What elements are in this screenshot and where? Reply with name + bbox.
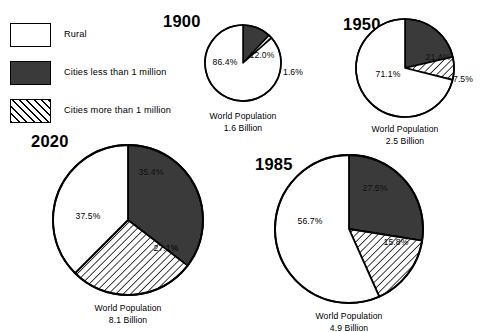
- chart-caption-1985: World Population 4.9 Billion: [299, 311, 399, 332]
- caption-line2-1900: 1.6 Billion: [193, 123, 293, 135]
- pie-svg-1985: [274, 154, 424, 304]
- chart-caption-1900: World Population 1.6 Billion: [193, 111, 293, 134]
- pie-slice-1985-cities_less_1m: [349, 155, 423, 241]
- legend-label-rural: Rural: [64, 30, 87, 39]
- legend-label-cities-less-1m: Cities less than 1 million: [64, 68, 166, 77]
- pie-svg-1950: [354, 17, 456, 119]
- caption-line1-2020: World Population: [78, 303, 178, 315]
- pie-label-2020-cities-less-1m: 35.4%: [139, 168, 164, 177]
- pie-label-1950-rural: 71.1%: [376, 70, 401, 79]
- legend: Rural Cities less than 1 million Cities …: [10, 22, 195, 136]
- caption-line1-1950: World Population: [355, 124, 455, 136]
- legend-item-cities-less-1m: Cities less than 1 million: [10, 60, 195, 86]
- chart-year-1900: 1900: [163, 13, 201, 30]
- pie-label-1950-cities-more-1m: 7.5%: [453, 75, 473, 84]
- pie-chart-1950: [354, 17, 456, 119]
- caption-line2-2020: 8.1 Billion: [78, 315, 178, 327]
- caption-line1-1985: World Population: [299, 311, 399, 323]
- legend-label-cities-more-1m: Cities more than 1 million: [64, 106, 171, 115]
- pie-label-1950-cities-less-1m: 21.4%: [426, 53, 451, 62]
- caption-line1-1900: World Population: [193, 111, 293, 123]
- pie-label-2020-cities-more-1m: 27.1%: [154, 244, 179, 253]
- figure-canvas: Rural Cities less than 1 million Cities …: [0, 0, 500, 332]
- legend-swatch-cities-less-1m: [10, 61, 51, 85]
- pie-label-1985-cities-more-1m: 15.8%: [384, 238, 409, 247]
- legend-swatch-cities-more-1m: [10, 99, 51, 123]
- pie-chart-1985: [274, 154, 424, 304]
- legend-item-cities-more-1m: Cities more than 1 million: [10, 98, 195, 124]
- pie-label-1985-rural: 56.7%: [298, 217, 323, 226]
- caption-line2-1985: 4.9 Billion: [299, 323, 399, 332]
- legend-swatch-rural: [10, 23, 51, 47]
- pie-label-1900-cities-less-1m: 12.0%: [250, 51, 275, 60]
- chart-caption-1950: World Population 2.5 Billion: [355, 124, 455, 147]
- pie-label-1900-cities-more-1m: 1.6%: [283, 68, 303, 77]
- pie-label-1900-rural: 86.4%: [213, 58, 238, 67]
- chart-caption-2020: World Population 8.1 Billion: [78, 303, 178, 326]
- caption-line2-1950: 2.5 Billion: [355, 136, 455, 148]
- pie-label-1985-cities-less-1m: 27.5%: [363, 184, 388, 193]
- pie-label-2020-rural: 37.5%: [76, 212, 101, 221]
